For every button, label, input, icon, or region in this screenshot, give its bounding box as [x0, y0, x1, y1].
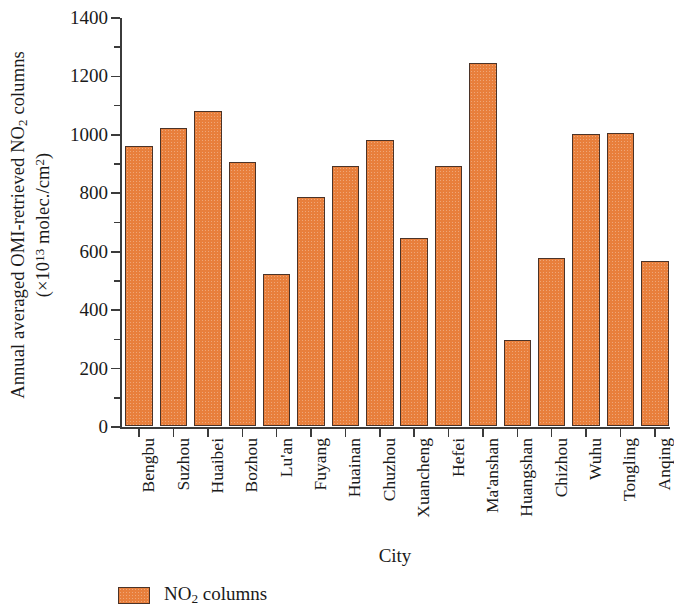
- x-tick: [379, 428, 381, 437]
- bar-ma-anshan: [469, 63, 497, 426]
- bar-bengbu: [125, 146, 153, 426]
- x-tick-label-text: Huaibei: [208, 438, 226, 493]
- x-tick-label: Suzhou: [165, 438, 183, 538]
- x-tick: [207, 428, 209, 437]
- x-tick-label-text: Huangshan: [517, 438, 535, 517]
- x-tick-label-text: Wuhu: [586, 438, 604, 480]
- bar-chizhou: [538, 258, 566, 426]
- x-tick: [310, 428, 312, 437]
- plot-area: 0200400600800100012001400: [120, 18, 670, 428]
- bar-suzhou: [160, 128, 188, 426]
- x-tick-label: Chuzhou: [371, 438, 389, 538]
- x-tick-label-text: Fuyang: [311, 438, 329, 491]
- y-tick-major: [111, 192, 120, 194]
- y-tick-minor: [114, 339, 120, 341]
- y-tick-minor: [114, 397, 120, 399]
- x-tick: [345, 428, 347, 437]
- x-tick-label: Huaibei: [199, 438, 217, 538]
- y-axis-line: [120, 18, 122, 429]
- y-tick-minor: [114, 280, 120, 282]
- y-tick-major: [111, 76, 120, 78]
- legend-swatch-no2: [118, 587, 150, 604]
- x-tick: [517, 428, 519, 437]
- x-tick-label-text: Chizhou: [552, 438, 570, 497]
- x-tick: [620, 428, 622, 437]
- x-axis-tick-labels: BengbuSuzhouHuaibeiBozhouLu'anFuyangHuai…: [120, 438, 670, 538]
- y-tick-label: 800: [8, 182, 108, 204]
- y-tick-label: 200: [8, 358, 108, 380]
- x-tick: [242, 428, 244, 437]
- x-tick-label-text: Tongling: [620, 438, 638, 501]
- x-tick-label: Fuyang: [302, 438, 320, 538]
- bar-fuyang: [297, 197, 325, 426]
- x-tick-label: Huainan: [336, 438, 354, 538]
- x-tick-label: Bozhou: [233, 438, 251, 538]
- y-tick-major: [111, 309, 120, 311]
- bar-xuancheng: [400, 238, 428, 426]
- x-tick-label: Xuancheng: [405, 438, 423, 538]
- bar-lu-an: [263, 274, 291, 426]
- x-tick: [413, 428, 415, 437]
- x-tick-label: Tongling: [611, 438, 629, 538]
- x-tick: [138, 428, 140, 437]
- x-tick-label: Anqing: [646, 438, 664, 538]
- x-tick: [654, 428, 656, 437]
- y-tick-major: [111, 251, 120, 253]
- x-tick-label-text: Suzhou: [174, 438, 192, 491]
- x-tick-label: Wuhu: [577, 438, 595, 538]
- x-tick-label: Lu'an: [268, 438, 286, 538]
- bar-chuzhou: [366, 140, 394, 426]
- chart-legend: NO2 columns: [118, 583, 267, 607]
- x-tick: [482, 428, 484, 437]
- x-tick-label: Bengbu: [130, 438, 148, 538]
- y-tick-label: 600: [8, 241, 108, 263]
- legend-label-no2: NO2 columns: [164, 583, 267, 607]
- x-tick: [448, 428, 450, 437]
- x-tick: [173, 428, 175, 437]
- y-tick-label: 1400: [8, 7, 108, 29]
- x-tick: [585, 428, 587, 437]
- y-tick-label: 1000: [8, 124, 108, 146]
- x-tick-label-text: Xuancheng: [414, 438, 432, 518]
- x-tick-label: Ma'anshan: [474, 438, 492, 538]
- bar-tongling: [607, 133, 635, 426]
- bar-wuhu: [572, 134, 600, 426]
- x-tick-label: Hefei: [440, 438, 458, 538]
- x-tick-label-text: Ma'anshan: [483, 438, 501, 513]
- x-tick-label-text: Bengbu: [139, 438, 157, 492]
- y-tick-minor: [114, 163, 120, 165]
- y-tick-major: [111, 426, 120, 428]
- y-tick-minor: [114, 222, 120, 224]
- bar-huainan: [332, 166, 360, 426]
- bar-huaibei: [194, 111, 222, 426]
- x-tick-label: Huangshan: [508, 438, 526, 538]
- x-axis-line: [120, 427, 670, 429]
- x-tick-label-text: Bozhou: [242, 438, 260, 492]
- y-tick-minor: [114, 105, 120, 107]
- y-axis-title-line2: (×1013 molec./cm2): [31, 51, 56, 399]
- y-tick-major: [111, 17, 120, 19]
- x-tick: [551, 428, 553, 437]
- x-tick-label-text: Lu'an: [277, 438, 295, 477]
- x-tick-label-text: Chuzhou: [380, 438, 398, 501]
- x-tick-label: Chizhou: [543, 438, 561, 538]
- bar-huangshan: [504, 340, 532, 426]
- x-axis-title: City: [120, 545, 670, 567]
- x-tick-label-text: Anqing: [655, 438, 673, 491]
- bar-bozhou: [229, 162, 257, 426]
- bar-hefei: [435, 166, 463, 426]
- x-tick-label-text: Hefei: [449, 438, 467, 477]
- x-tick: [276, 428, 278, 437]
- bar-anqing: [641, 261, 669, 426]
- y-tick-label: 0: [8, 416, 108, 438]
- y-tick-major: [111, 134, 120, 136]
- y-axis-title-line1: Annual averaged OMI-retrieved NO2 column…: [6, 51, 31, 399]
- y-tick-label: 1200: [8, 65, 108, 87]
- y-tick-minor: [114, 46, 120, 48]
- y-tick-label: 400: [8, 299, 108, 321]
- y-tick-major: [111, 368, 120, 370]
- x-tick-label-text: Huainan: [345, 438, 363, 497]
